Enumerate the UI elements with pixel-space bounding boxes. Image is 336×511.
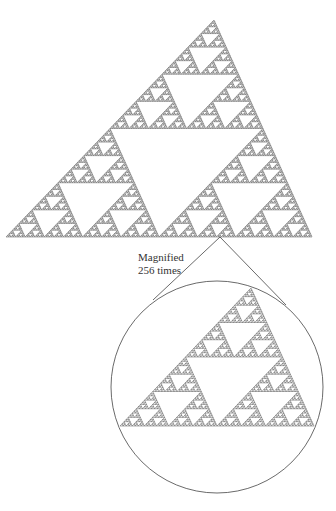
sierpinski-triangle-magnified bbox=[120, 288, 314, 426]
sierpinski-triangle-large bbox=[6, 20, 312, 237]
magnification-label-line2: 256 times bbox=[138, 264, 184, 277]
magnification-label: Magnified 256 times bbox=[138, 251, 184, 277]
magnification-label-line1: Magnified bbox=[138, 251, 184, 264]
